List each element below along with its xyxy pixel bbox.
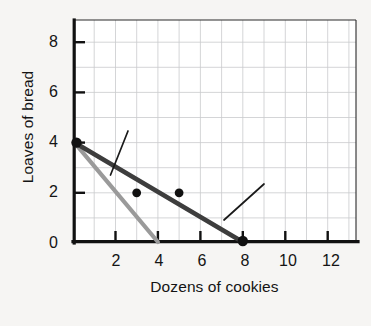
chart-figure: Loaves of bread 8 6 4 2 0 2 4 6 8 10 12 … xyxy=(0,0,371,326)
data-point-a[interactable] xyxy=(175,188,184,197)
endpoint-marker-intercept xyxy=(71,137,81,147)
endpoint-marker-steve-x xyxy=(238,236,248,246)
data-point-b[interactable] xyxy=(132,188,141,197)
chart-canvas xyxy=(0,0,371,326)
